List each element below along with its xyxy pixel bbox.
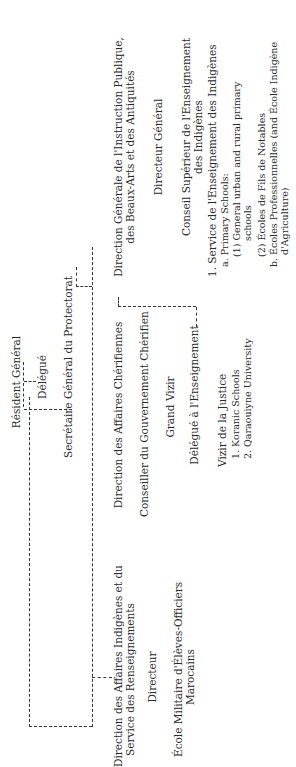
resident-general: Résident Général [10, 327, 22, 437]
connector [92, 247, 93, 727]
connector [92, 677, 112, 678]
conseiller-gouvernement: Conseiller du Gouvernement Chérifien [138, 317, 150, 517]
connector [76, 286, 92, 287]
qaraouiyne-university: 2. Qaraouiyne University [242, 338, 253, 459]
connector [24, 409, 72, 410]
connector [196, 307, 197, 327]
vizir-justice: Vizir de la Justice [216, 374, 228, 467]
primary-schools: a. Primary Schools: [219, 173, 230, 267]
connector [29, 726, 92, 727]
service-enseignement: 1. Service de l'Enseignement des Indigèn… [206, 44, 218, 277]
connector [118, 306, 196, 307]
ecole-militaire: École Militaire d'Élèves-Officiers Maroc… [172, 597, 196, 757]
secretaire-general: Secrétaire Général du Protectorat [62, 267, 74, 467]
connector [76, 267, 77, 287]
delegue: Délégué [36, 347, 48, 407]
ecoles-professionnelles: b. Écoles Professionnelles (and École In… [268, 42, 290, 267]
ecoles-fils-notables: (2) Écoles de Fils de Notables [256, 113, 267, 257]
direction-affaires-cherifiennes: Direction des Affaires Chérifiennes [112, 315, 124, 515]
org-chart: Résident Général Délégué Secrétaire Géné… [0, 0, 296, 767]
direction-instruction-publique: Direction Générale de l'Instruction Publ… [112, 12, 136, 302]
connector [29, 397, 30, 727]
general-primary-schools: (1) General urban and rural primary scho… [231, 82, 253, 257]
direction-affaires-indigenes: Direction des Affaires Indigènes et du S… [112, 592, 136, 767]
grand-vizir: Grand Vizir [164, 367, 176, 447]
connector [24, 381, 36, 382]
directeur-general: Directeur Général [152, 97, 164, 197]
directeur: Directeur [146, 647, 158, 707]
delegue-enseignement: Délégué à l'Enseignement [188, 325, 200, 465]
koranic-schools: 1. Koranic Schools [230, 369, 241, 459]
conseil-superieur: Conseil Supérieur de l'Enseignement des … [180, 37, 204, 237]
connector [23, 362, 24, 407]
